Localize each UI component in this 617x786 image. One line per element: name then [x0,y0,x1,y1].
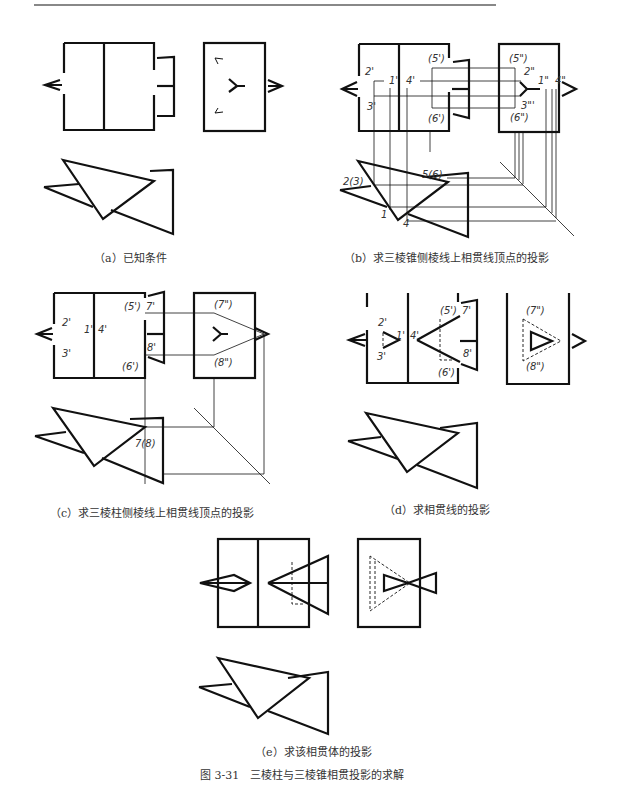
svg-text:3': 3' [367,101,376,112]
svg-text:4': 4' [410,330,419,341]
svg-text:(6'): (6') [428,113,445,124]
svg-text:(7"): (7") [526,305,545,316]
panel-e-top-view [199,658,328,734]
panel-c-front-view [37,292,164,378]
svg-text:8': 8' [463,348,472,359]
svg-text:(5"): (5") [509,53,528,64]
panel-d-top-view [348,413,477,488]
svg-text:7': 7' [462,305,471,316]
svg-text:(6'): (6') [122,361,139,372]
panel-a-side-view [204,43,282,131]
panel-a-top-view [44,160,173,234]
engineering-drawing: (5')2'1' 4'3'(6') (5")2"1" 4"3"'(6") 2(3… [0,0,617,786]
svg-text:4: 4 [403,218,409,229]
figure-title: 图 3-31 三棱柱与三棱锥相贯投影的求解 [200,766,404,782]
svg-text:8': 8' [147,342,156,353]
svg-text:1": 1" [538,75,549,86]
svg-text:4': 4' [406,75,415,86]
svg-text:2": 2" [524,66,535,77]
svg-text:2': 2' [378,317,387,328]
svg-text:4': 4' [98,324,107,335]
svg-text:1': 1' [84,324,93,335]
svg-text:7': 7' [146,301,155,312]
svg-text:3"': 3"' [521,100,535,111]
svg-text:7(8): 7(8) [135,438,156,449]
svg-text:(8"): (8") [526,361,545,372]
svg-text:(8"): (8") [214,357,233,368]
svg-text:2': 2' [365,66,374,77]
svg-text:3': 3' [377,351,386,362]
svg-text:(5'): (5') [440,305,457,316]
panel-d-side-view [507,293,585,384]
panel-a-front-view [45,43,174,130]
caption-d: （d）求相贯线的投影 [384,501,490,517]
svg-text:4": 4" [555,75,566,86]
svg-text:(7"): (7") [214,299,233,310]
svg-text:2': 2' [62,317,71,328]
svg-text:1: 1 [381,209,387,220]
svg-text:(6"): (6") [510,112,529,123]
svg-text:1': 1' [389,75,398,86]
panel-b-projection-lines [374,68,574,236]
svg-text:(5'): (5') [124,301,141,312]
caption-c: （c）求三棱柱侧棱线上相贯线顶点的投影 [50,504,254,520]
svg-text:1': 1' [396,330,405,341]
svg-text:5(6): 5(6) [422,169,443,180]
svg-text:3': 3' [62,348,71,359]
panel-e-front-view [200,539,328,627]
svg-text:(6'): (6') [438,367,455,378]
svg-text:2(3): 2(3) [343,176,364,187]
panel-b-front-view [342,44,469,131]
caption-b: （b）求三棱锥侧棱线上相贯线顶点的投影 [344,249,549,265]
caption-e: （e）求该相贯体的投影 [255,743,372,759]
svg-text:(5'): (5') [428,53,445,64]
caption-a: （a）已知条件 [94,249,167,265]
